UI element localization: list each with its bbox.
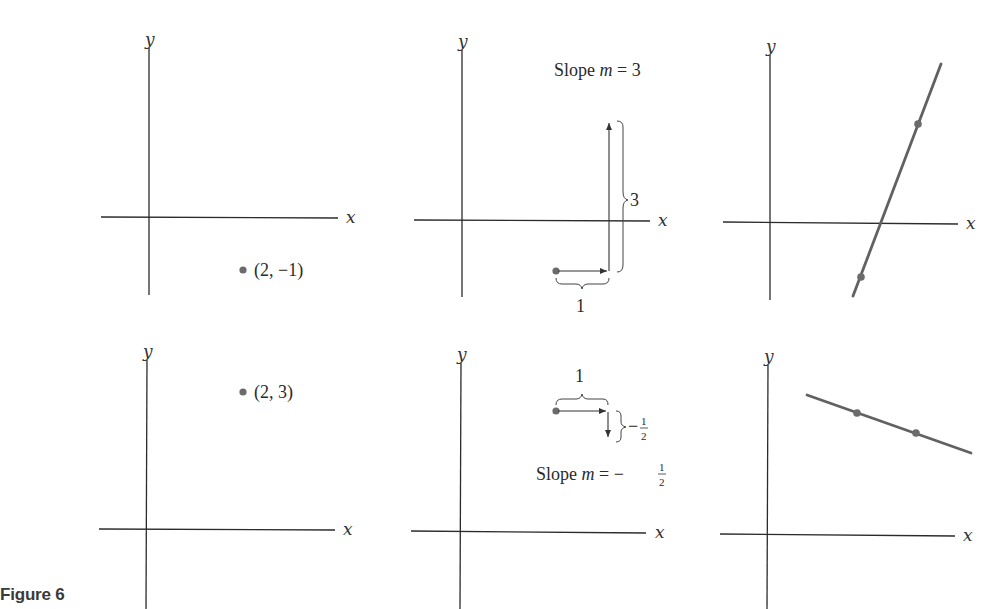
- y-axis-label: y: [765, 36, 776, 56]
- svg-text:1: 1: [659, 461, 665, 473]
- panel-bottom-right: y x: [720, 346, 973, 609]
- slope-label: Slope m = − 1 2: [536, 461, 666, 488]
- panel-top-middle: y x Slope m = 3 3 1: [414, 31, 668, 316]
- panel-top-right: y x: [723, 36, 976, 300]
- run-brace: [556, 394, 608, 405]
- svg-text:Slope m = −: Slope m = −: [536, 464, 624, 484]
- figure-caption: Figure 6: [0, 585, 65, 605]
- svg-text:2: 2: [641, 430, 647, 442]
- figure-canvas: y x (2, −1) y x Slope m = 3 3 1 y x: [0, 0, 997, 609]
- x-axis: [414, 220, 650, 221]
- point-marker: [853, 409, 861, 417]
- point-marker: [857, 273, 865, 281]
- point-marker: [912, 429, 920, 437]
- point-label: (2, 3): [254, 382, 293, 403]
- rise-brace: [616, 411, 626, 442]
- y-axis: [460, 363, 461, 609]
- y-axis-label: y: [142, 341, 153, 361]
- x-axis-label: x: [655, 522, 665, 542]
- svg-text:1: 1: [641, 415, 647, 427]
- y-axis-label: y: [456, 344, 467, 364]
- x-axis-label: x: [966, 213, 976, 233]
- y-axis: [767, 365, 768, 609]
- x-axis-label: x: [346, 207, 356, 227]
- y-axis: [146, 360, 147, 609]
- point-marker: [239, 388, 246, 395]
- rise-brace: [617, 121, 628, 272]
- rise-label: 3: [630, 190, 639, 210]
- point-marker: [914, 120, 922, 128]
- panel-bottom-left: y x (2, 3): [99, 341, 353, 609]
- run-label: 1: [576, 296, 585, 316]
- y-axis-label: y: [144, 29, 155, 49]
- y-axis-label: y: [457, 31, 468, 51]
- x-axis: [720, 534, 955, 536]
- x-axis-label: x: [343, 519, 353, 539]
- run-brace: [556, 278, 609, 289]
- rise-label: − 1 2: [628, 415, 648, 442]
- x-axis: [101, 217, 338, 218]
- point-marker: [239, 266, 246, 273]
- run-label: 1: [575, 366, 584, 386]
- point-label: (2, −1): [254, 260, 303, 281]
- x-axis-label: x: [963, 525, 973, 545]
- graphed-line: [807, 395, 971, 453]
- x-axis-label: x: [658, 210, 668, 230]
- y-axis-label: y: [763, 346, 774, 366]
- panel-top-left: y x (2, −1): [101, 29, 356, 295]
- panel-bottom-middle: y x 1 − 1 2 Slope m = − 1 2: [411, 344, 666, 609]
- svg-text:2: 2: [659, 476, 665, 488]
- slope-label: Slope m = 3: [554, 60, 641, 80]
- graphed-line: [853, 64, 941, 296]
- x-axis: [411, 531, 646, 533]
- svg-text:−: −: [628, 416, 638, 436]
- x-axis: [723, 222, 958, 224]
- x-axis: [99, 529, 335, 530]
